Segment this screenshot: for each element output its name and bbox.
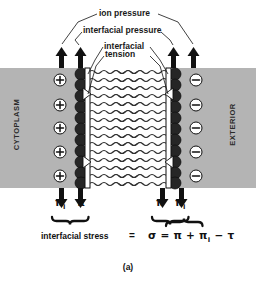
region-label-cytoplasm: CYTOPLASM [12,95,21,155]
callout-ion-pressure: ion pressure [99,8,150,18]
force-label-left-outer: πI [55,197,65,211]
tail-mask-bottom [14,188,242,194]
callout-interfacial-pressure: interfacial pressure [83,25,161,35]
equation-equals-sign: = [129,230,135,241]
figure-caption: (a) [0,262,256,272]
equation-expression: σ = π + πI − τ [148,229,234,244]
region-label-exterior: EXTERIOR [228,95,237,155]
tail-mask-top [14,62,242,68]
force-label-right-inner: π [156,197,164,208]
brace-left [52,217,89,225]
force-label-right-outer: πI [175,197,185,211]
force-label-left-inner: π [77,197,85,208]
brace-equation [166,219,203,227]
callout-interfacial-tension-line2: tension [105,49,135,59]
equation-name-label: interfacial stress [41,231,109,241]
